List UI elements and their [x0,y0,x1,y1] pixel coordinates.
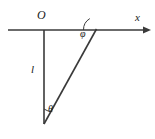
geometry-figure: O x l φ θ [0,0,155,139]
x-axis-label: x [135,12,140,23]
length-label: l [31,64,34,75]
phi-angle-label: φ [80,29,86,39]
figure-canvas [0,0,155,139]
theta-angle-label: θ [48,104,53,114]
x-axis-arrowhead [143,27,151,34]
origin-label: O [37,9,46,21]
